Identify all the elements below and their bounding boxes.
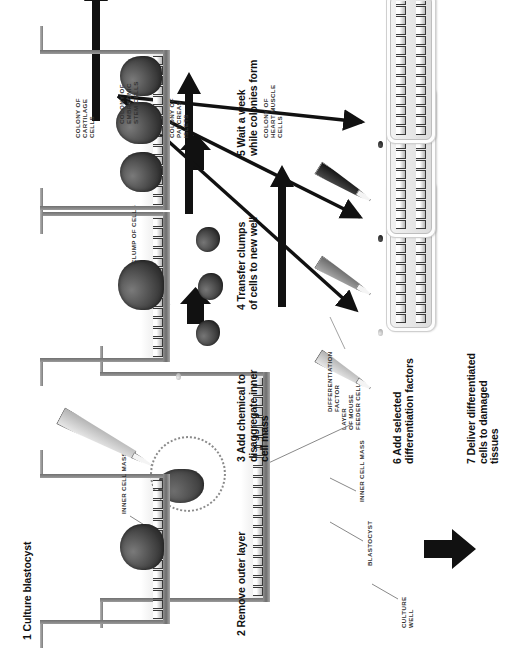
callout-clump-of-cells: CLUMP OF CELLS (130, 205, 137, 264)
pipette-tip (355, 283, 372, 297)
well-wall-left (40, 358, 170, 362)
diagram-canvas: 1 Culture blastocyst CULTURE WELL BLASTO… (0, 0, 528, 662)
well-floor (163, 212, 170, 362)
feeder-cell-layer (416, 1, 426, 135)
chemical-droplet (176, 373, 181, 380)
well-wall-left (40, 620, 170, 624)
step-4-title: 4 Transfer clumps of cells to new well (236, 217, 259, 310)
step-5-title: 5 Wait a week while colonies form (236, 60, 259, 156)
outcome-label-heart: COLONY OF HEART MUSCLE CELLS (262, 85, 284, 138)
feeder-cell-layer (396, 1, 406, 135)
step-1-title: 1 Culture blastocyst (22, 542, 34, 640)
step-6-title: 6 Add selected differentiation factors (392, 358, 415, 464)
well-lip-right (40, 26, 43, 52)
pipette-body (314, 161, 363, 199)
pipette-body (314, 255, 363, 293)
differentiation-dish-3 (386, 0, 436, 144)
well-lip-left (40, 622, 43, 648)
step-2-title: 2 Remove outer layer (236, 532, 248, 636)
callout-colony-embryonic: COLONY OF EMBRYONIC STEM CELLS (118, 81, 140, 124)
callout-culture-well: CULTURE WELL (400, 596, 414, 628)
clump-of-cells (196, 227, 220, 252)
step-3-title: 3 Add chemical to disaggregate inner cel… (236, 370, 271, 462)
well-wall-left (40, 206, 170, 210)
well-wall-right (40, 474, 170, 478)
pipette-tip (355, 189, 372, 203)
differentiation-factor-droplet (378, 235, 383, 242)
inner-cell-mass-blob (120, 524, 164, 570)
flow-arrow-1-2 (424, 529, 476, 569)
clump-of-cells (196, 320, 220, 346)
well-lip-left (40, 360, 43, 386)
outcome-label-pancreas: COLONY OF PANCREAS ISLETS (168, 98, 190, 138)
callout-differentiation-factor: DIFFERENTIATION FACTOR (326, 352, 340, 412)
differentiation-factor-droplet (378, 329, 383, 336)
callout-feeder-layer: LAYER OF MOUSE FEEDER CELLS (340, 379, 362, 430)
step-7-title: 7 Deliver differentiated cells to damage… (466, 353, 501, 464)
callout-inner-cell-mass-2: INNER CELL MASS (120, 452, 127, 514)
differentiation-factor-droplet (378, 141, 383, 148)
well-wall-right (40, 212, 170, 216)
callout-blastocyst: BLASTOCYST (366, 521, 373, 566)
figure-stage: 1 Culture blastocyst CULTURE WELL BLASTO… (0, 0, 528, 662)
outcome-label-cartilage: COLONY OF CARTILAGE CELLS (74, 98, 96, 138)
callout-inner-cell-mass-1: INNER CELL MASS (358, 440, 365, 502)
flow-arrow-4-5 (180, 133, 211, 170)
es-colony (120, 152, 162, 192)
clump-of-cells (198, 273, 223, 300)
well-lip-left (40, 208, 43, 234)
well-lip-right (40, 450, 43, 476)
disaggregated-cell-mass (118, 260, 164, 310)
well-floor (163, 474, 170, 624)
well-wall-right (40, 50, 170, 54)
